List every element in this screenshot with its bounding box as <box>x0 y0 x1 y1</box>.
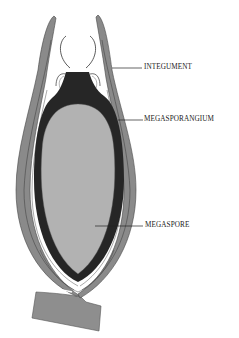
pollen-chamber <box>60 36 95 68</box>
stalk <box>32 292 101 331</box>
integument-label: INTEGUMENT <box>144 64 192 71</box>
megasporangium-label: MEGASPORANGIUM <box>144 116 214 123</box>
ovule-diagram <box>0 0 239 338</box>
megaspore-label: MEGASPORE <box>145 222 189 229</box>
